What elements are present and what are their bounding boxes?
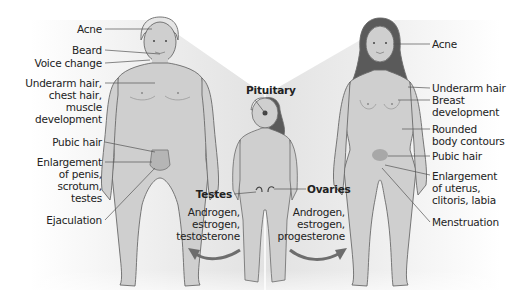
female-label-breast-development: Breast development xyxy=(432,94,499,118)
male-label-pubic-hair: Pubic hair xyxy=(52,136,102,148)
female-label-pubic-hair: Pubic hair xyxy=(432,150,482,162)
male-label-enlargement: Enlargement of penis, scrotum, testes xyxy=(37,156,102,204)
label-ovaries: Ovaries xyxy=(307,183,351,195)
male-label-voice-change: Voice change xyxy=(34,57,102,69)
female-label-enlargement: Enlargement of uterus, clitoris, labia xyxy=(432,170,497,206)
label-pituitary: Pituitary xyxy=(246,84,296,96)
male-label-underarm-chest-muscle: Underarm hair, chest hair, muscle develo… xyxy=(25,77,102,125)
label-testes: Testes xyxy=(196,188,232,200)
female-label-underarm-hair: Underarm hair xyxy=(432,82,506,94)
male-label-ejaculation: Ejaculation xyxy=(46,214,102,226)
male-label-acne: Acne xyxy=(77,23,102,35)
puberty-diagram: Acne Beard Voice change Underarm hair, c… xyxy=(0,0,530,306)
female-label-menstruation: Menstruation xyxy=(432,216,499,228)
label-testes-hormones: Androgen, estrogen, testosterone xyxy=(176,206,240,242)
male-label-beard: Beard xyxy=(72,44,102,56)
label-ovaries-hormones: Androgen, estrogen, progesterone xyxy=(277,206,345,242)
female-label-acne: Acne xyxy=(432,38,457,50)
female-label-rounded-contours: Rounded body contours xyxy=(432,123,505,147)
